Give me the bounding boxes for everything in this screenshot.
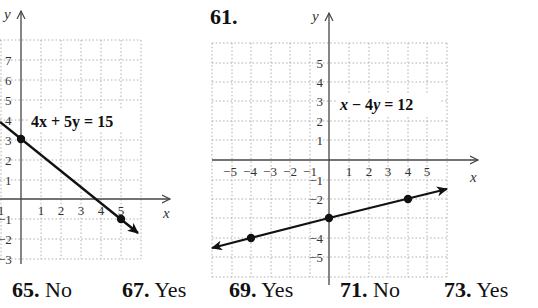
right-y-axis-label: y [310, 8, 319, 24]
right-point-0-neg3 [325, 214, 333, 222]
svg-text:1: 1 [38, 203, 45, 218]
right-point-neg4-neg4 [247, 234, 255, 242]
svg-text:−4: −4 [243, 164, 257, 179]
answer-73: 73. Yes [444, 277, 508, 303]
svg-text:−2: −2 [283, 164, 297, 179]
svg-text:−3: −3 [0, 252, 12, 267]
svg-text:−1: −1 [303, 164, 317, 179]
answer-67: 67. Yes [122, 277, 186, 303]
svg-text:1: 1 [346, 164, 353, 179]
svg-text:2: 2 [5, 153, 12, 168]
left-x-axis-label: x [162, 205, 170, 221]
figure-canvas: y x 7 6 5 4 3 2 1 −1 −2 −3 1 1 2 3 4 5 4… [0, 0, 538, 308]
left-graph: y x 7 6 5 4 3 2 1 −1 −2 −3 1 1 2 3 4 5 4… [0, 6, 170, 267]
svg-text:−5: −5 [309, 250, 323, 265]
svg-text:4: 4 [405, 164, 412, 179]
left-point-5-neg1 [117, 215, 125, 223]
answer-69: 69. Yes [229, 277, 293, 303]
problem-number-61: 61. [210, 4, 238, 30]
svg-text:7: 7 [5, 53, 12, 68]
left-equation: 4x + 5y = 15 [31, 113, 113, 131]
answer-row: 65. No 67. Yes 69. Yes 71. No 73. Yes [0, 277, 538, 308]
left-y-axis-label: y [2, 6, 11, 22]
right-graph: y x 5 4 3 2 1 −1 −2 −4 −5 −5 −4 −3 −2 −1… [212, 8, 478, 285]
svg-text:−2: −2 [309, 192, 323, 207]
left-point-0-3 [17, 135, 25, 143]
svg-text:2: 2 [58, 203, 65, 218]
svg-text:3: 3 [78, 203, 85, 218]
svg-text:−4: −4 [309, 231, 323, 246]
answer-65: 65. No [12, 277, 72, 303]
svg-text:1: 1 [0, 203, 4, 218]
left-x-tick-labels: 1 1 2 3 4 5 [0, 203, 124, 218]
svg-text:4: 4 [317, 75, 324, 90]
right-x-axis-label: x [469, 169, 477, 185]
right-x-tick-labels: −5 −4 −3 −2 −1 1 2 3 4 5 [223, 164, 430, 179]
svg-text:5: 5 [5, 93, 12, 108]
answer-71: 71. No [340, 277, 400, 303]
svg-text:3: 3 [385, 164, 392, 179]
svg-text:−2: −2 [0, 232, 12, 247]
svg-text:2: 2 [317, 114, 324, 129]
svg-text:5: 5 [317, 56, 324, 71]
svg-text:6: 6 [5, 73, 12, 88]
left-y-tick-labels: 7 6 5 4 3 2 1 −1 −2 −3 [0, 53, 12, 267]
svg-text:3: 3 [5, 133, 12, 148]
svg-text:3: 3 [317, 94, 324, 109]
svg-text:1: 1 [5, 173, 12, 188]
svg-text:5: 5 [424, 164, 431, 179]
right-equation: x − 4y = 12 [339, 96, 413, 114]
svg-text:−5: −5 [223, 164, 237, 179]
svg-text:−3: −3 [263, 164, 277, 179]
svg-text:2: 2 [366, 164, 373, 179]
svg-text:1: 1 [317, 133, 324, 148]
right-point-4-neg2 [404, 195, 412, 203]
